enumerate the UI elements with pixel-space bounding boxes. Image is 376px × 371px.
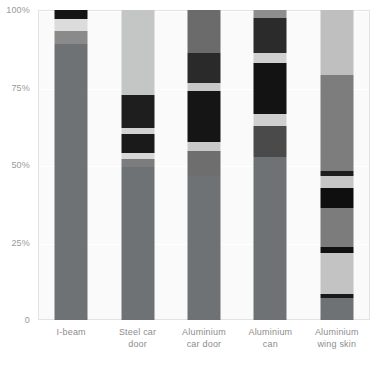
bar-segment: [254, 10, 287, 18]
x-label-0: I-beam: [38, 326, 104, 338]
bar-segment: [187, 53, 220, 82]
x-label-3-line-1: can: [237, 338, 303, 350]
bar-segment: [254, 114, 287, 126]
bars-layer: [38, 10, 370, 320]
y-tick-75: 75%: [11, 83, 30, 92]
bar-segment: [121, 134, 154, 153]
y-axis: 100% 75% 50% 25% 0: [0, 10, 34, 320]
y-tick-100: 100%: [6, 6, 30, 15]
x-label-1-line-0: Steel car: [104, 326, 170, 338]
bar-stack-aluminium-wing-skin[interactable]: [320, 10, 353, 320]
bar-segment: [121, 167, 154, 320]
y-tick-50: 50%: [11, 161, 30, 170]
x-label-0-line-0: I-beam: [38, 326, 104, 338]
x-label-3-line-0: Aluminium: [237, 326, 303, 338]
x-label-2: Aluminium car door: [171, 326, 237, 350]
x-label-1-line-1: door: [104, 338, 170, 350]
bar-segment: [254, 18, 287, 54]
bar-segment: [254, 126, 287, 157]
bar-segment: [320, 176, 353, 188]
x-label-2-line-1: car door: [171, 338, 237, 350]
bar-stack-aluminium-car-door[interactable]: [187, 10, 220, 320]
bar-segment: [121, 10, 154, 95]
bar-segment: [187, 142, 220, 151]
bar-group-1: [104, 10, 170, 320]
bar-segment: [55, 10, 88, 19]
x-axis-labels: I-beam Steel car door Aluminium car door…: [38, 326, 370, 360]
bar-segment: [121, 159, 154, 167]
bar-segment: [121, 95, 154, 128]
x-label-4-line-0: Aluminium: [304, 326, 370, 338]
bar-segment: [320, 208, 353, 247]
x-label-3: Aluminium can: [237, 326, 303, 350]
bar-segment: [187, 83, 220, 91]
bar-stack-aluminium-can[interactable]: [254, 10, 287, 320]
x-label-1: Steel car door: [104, 326, 170, 350]
bar-group-2: [171, 10, 237, 320]
y-tick-25: 25%: [11, 238, 30, 247]
y-tick-0: 0: [25, 316, 30, 325]
bar-segment: [254, 53, 287, 62]
x-label-2-line-0: Aluminium: [171, 326, 237, 338]
bar-segment: [254, 157, 287, 320]
bar-segment: [55, 19, 88, 31]
bar-segment: [320, 298, 353, 320]
x-label-4-line-1: wing skin: [304, 338, 370, 350]
bar-segment: [320, 75, 353, 171]
bar-segment: [320, 10, 353, 75]
bar-segment: [187, 91, 220, 142]
bar-segment: [55, 31, 88, 44]
bar-segment: [320, 188, 353, 208]
bar-segment: [320, 253, 353, 293]
bar-stack-i-beam[interactable]: [55, 10, 88, 320]
bar-group-3: [237, 10, 303, 320]
bar-stack-steel-car-door[interactable]: [121, 10, 154, 320]
stacked-bar-chart: 100% 75% 50% 25% 0 I-beam Steel car door: [0, 0, 376, 371]
bar-group-0: [38, 10, 104, 320]
bar-segment: [55, 44, 88, 320]
x-label-4: Aluminium wing skin: [304, 326, 370, 350]
bar-group-4: [304, 10, 370, 320]
bar-segment: [187, 151, 220, 176]
bar-segment: [187, 10, 220, 53]
bar-segment: [187, 176, 220, 320]
bar-segment: [254, 63, 287, 114]
